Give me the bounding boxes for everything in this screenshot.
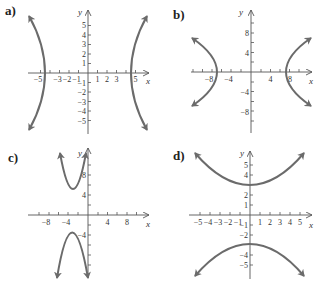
svg-text:2: 2 [244,191,248,200]
svg-text:−2: −2 [63,75,72,84]
svg-text:1: 1 [82,59,86,68]
svg-text:1: 1 [96,75,100,84]
svg-text:−2: −2 [224,218,233,227]
svg-text:2: 2 [105,75,109,84]
graph-d: d) −5 −4 −3 −2 −1 1 2 3 4 5 [157,145,314,291]
svg-text:−3: −3 [77,98,86,107]
svg-text:4: 4 [245,49,249,58]
svg-text:y: y [238,7,243,17]
svg-text:3: 3 [115,75,119,84]
svg-text:1: 1 [258,218,262,227]
svg-text:8: 8 [125,218,129,227]
svg-text:3: 3 [82,40,86,49]
graph-c-plot: −8 −4 4 8 8 4 −4 x y [0,145,157,291]
svg-text:−2: −2 [239,231,248,240]
svg-text:4: 4 [288,218,292,227]
graph-a-plot: −5 −3 −2 −1 1 2 3 5 5 4 3 2 1 −1 −2 −3 −… [0,0,157,145]
svg-text:−3: −3 [214,218,223,227]
svg-text:y: y [239,148,244,158]
svg-text:4: 4 [82,191,86,200]
graph-d-plot: −5 −4 −3 −2 −1 1 2 3 4 5 5 4 2 1 −1 −2 −… [157,145,314,291]
svg-text:x: x [308,220,313,230]
svg-text:−2: −2 [77,88,86,97]
svg-text:4: 4 [106,218,110,227]
svg-text:y: y [77,7,82,17]
graph-a: a) −5 −3 −2 −1 1 2 3 [0,0,157,145]
svg-text:5: 5 [134,75,138,84]
svg-text:−8: −8 [42,218,51,227]
svg-text:−5: −5 [239,261,248,270]
svg-text:−1: −1 [77,79,86,88]
svg-text:2: 2 [268,218,272,227]
svg-text:4: 4 [269,75,273,84]
svg-text:4: 4 [244,171,248,180]
svg-text:4: 4 [82,31,86,40]
svg-text:y: y [77,148,82,158]
svg-text:−5: −5 [77,117,86,126]
svg-text:3: 3 [278,218,282,227]
svg-text:−4: −4 [77,107,86,116]
svg-text:x: x [145,76,150,86]
svg-text:5: 5 [298,218,302,227]
svg-text:5: 5 [244,161,248,170]
svg-text:1: 1 [244,201,248,210]
svg-text:−8: −8 [205,75,214,84]
svg-text:x: x [308,76,313,86]
graph-c: c) −8 −4 4 8 8 4 −4 x y [0,145,157,291]
svg-text:−5: −5 [34,75,43,84]
svg-text:8: 8 [245,29,249,38]
svg-text:−4: −4 [239,251,248,260]
svg-text:−3: −3 [53,75,62,84]
svg-text:−4: −4 [240,88,249,97]
svg-text:x: x [145,219,150,229]
graph-b-plot: −8 −4 4 8 8 4 −4 −8 x y [157,0,314,145]
graph-b: b) −8 −4 4 8 8 4 −4 −8 [157,0,314,145]
svg-text:−5: −5 [194,218,203,227]
svg-text:2: 2 [82,50,86,59]
svg-text:−4: −4 [204,218,213,227]
svg-text:5: 5 [82,21,86,30]
svg-text:−4: −4 [224,75,233,84]
svg-text:−8: −8 [240,108,249,117]
svg-text:−4: −4 [62,218,71,227]
svg-text:−1: −1 [239,221,248,230]
